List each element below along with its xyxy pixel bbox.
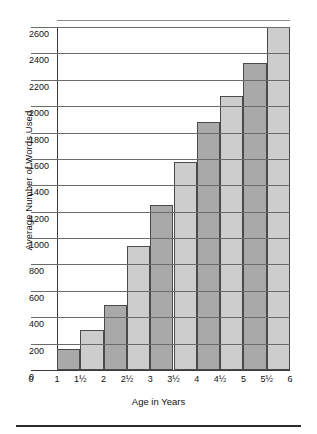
x-tick-label: 5 bbox=[241, 374, 246, 384]
x-tick-label: 3½ bbox=[167, 374, 180, 384]
y-tick-label: 400 bbox=[29, 319, 55, 329]
y-tick-label: 600 bbox=[29, 293, 55, 303]
bar bbox=[57, 349, 80, 370]
x-tick-label: 0 bbox=[28, 374, 33, 384]
gridline bbox=[57, 53, 290, 54]
y-tick-label: 1400 bbox=[29, 187, 55, 197]
y-tick-mark bbox=[31, 264, 57, 265]
y-tick-mark bbox=[31, 80, 57, 81]
plot-area bbox=[57, 27, 290, 370]
x-axis-title: Age in Years bbox=[0, 396, 317, 407]
gridline bbox=[57, 159, 290, 160]
gridline bbox=[57, 185, 290, 186]
gridline bbox=[57, 291, 290, 292]
gridline bbox=[57, 212, 290, 213]
x-tick-label: 5½ bbox=[260, 374, 273, 384]
gridline bbox=[57, 80, 290, 81]
x-tick-label: 6 bbox=[287, 374, 292, 384]
y-tick-mark bbox=[31, 212, 57, 213]
x-tick-label: 1 bbox=[54, 374, 59, 384]
y-tick-label: 1800 bbox=[29, 135, 55, 145]
bar-chart-figure: Average Number of Words Used 02004006008… bbox=[0, 0, 317, 434]
y-tick-label: 2200 bbox=[29, 82, 55, 92]
bar bbox=[220, 96, 243, 370]
y-tick-mark bbox=[31, 133, 57, 134]
bar bbox=[267, 27, 290, 370]
y-tick-label: 800 bbox=[29, 266, 55, 276]
top-rule bbox=[57, 20, 290, 21]
y-tick-mark bbox=[31, 159, 57, 160]
y-tick-label: 1000 bbox=[29, 240, 55, 250]
y-tick-mark bbox=[31, 27, 57, 28]
gridline bbox=[57, 238, 290, 239]
x-axis-line bbox=[31, 370, 290, 371]
x-tick-label: 4 bbox=[194, 374, 199, 384]
y-tick-mark bbox=[31, 344, 57, 345]
gridline bbox=[57, 106, 290, 107]
y-tick-label: 1200 bbox=[29, 214, 55, 224]
bar bbox=[150, 205, 173, 370]
gridline bbox=[57, 317, 290, 318]
y-tick-mark bbox=[31, 317, 57, 318]
y-tick-label: 1600 bbox=[29, 161, 55, 171]
y-tick-mark bbox=[31, 106, 57, 107]
y-tick-label: 2600 bbox=[29, 29, 55, 39]
bar bbox=[104, 305, 127, 370]
bar bbox=[174, 162, 197, 370]
x-tick-label: 2 bbox=[101, 374, 106, 384]
y-tick-mark bbox=[31, 185, 57, 186]
y-tick-mark bbox=[31, 53, 57, 54]
y-tick-label: 2400 bbox=[29, 55, 55, 65]
gridline bbox=[57, 133, 290, 134]
y-tick-mark bbox=[31, 238, 57, 239]
bottom-divider bbox=[16, 425, 301, 427]
bar bbox=[80, 330, 103, 370]
y-tick-label: 200 bbox=[29, 346, 55, 356]
y-tick-label: 2000 bbox=[29, 108, 55, 118]
x-tick-label: 1½ bbox=[74, 374, 87, 384]
bar bbox=[243, 63, 266, 370]
gridline bbox=[57, 344, 290, 345]
x-tick-label: 2½ bbox=[121, 374, 134, 384]
x-tick-label: 3 bbox=[148, 374, 153, 384]
x-tick-label: 4½ bbox=[214, 374, 227, 384]
gridline bbox=[57, 27, 290, 28]
y-tick-mark bbox=[31, 291, 57, 292]
gridline bbox=[57, 264, 290, 265]
